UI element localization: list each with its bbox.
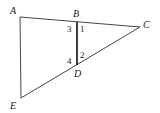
angle-label-1: 1 (80, 24, 85, 34)
point-label-e: E (9, 100, 16, 111)
geometry-diagram: A B C D E 1 2 3 4 (0, 0, 160, 113)
point-label-d: D (73, 68, 82, 79)
angle-label-2: 2 (80, 50, 85, 60)
point-label-b: B (73, 8, 79, 19)
segment-ae (20, 17, 21, 98)
point-label-a: A (9, 5, 17, 16)
angle-label-3: 3 (67, 24, 72, 34)
segment-ec (21, 27, 140, 98)
angle-label-4: 4 (67, 56, 72, 66)
point-label-c: C (143, 19, 150, 30)
